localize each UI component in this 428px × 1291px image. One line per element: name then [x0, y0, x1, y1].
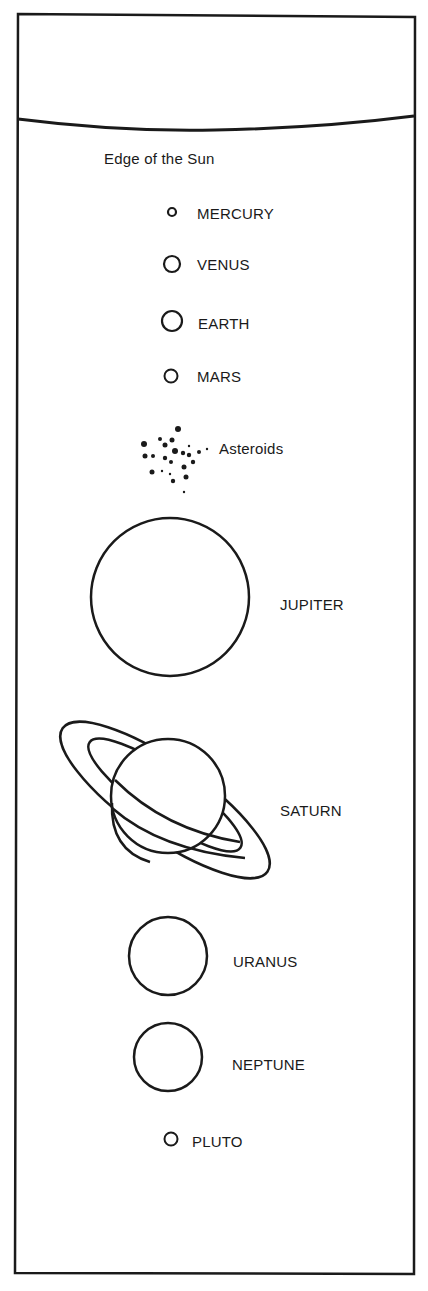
venus-circle: [164, 256, 180, 272]
uranus-label: URANUS: [233, 954, 298, 969]
saturn-label: SATURN: [280, 803, 342, 818]
mars-label: MARS: [197, 369, 241, 384]
solar-system-diagram: [0, 0, 428, 1291]
jupiter-circle: [91, 518, 249, 676]
pluto-label: PLUTO: [192, 1134, 243, 1149]
mars-circle: [165, 370, 178, 383]
sun-edge-curve: [18, 116, 414, 130]
earth-circle: [162, 311, 182, 331]
neptune-circle: [134, 1023, 202, 1091]
pluto-circle: [165, 1133, 178, 1146]
saturn-icon: [41, 697, 289, 903]
neptune-label: NEPTUNE: [232, 1057, 305, 1072]
jupiter-label: JUPITER: [280, 597, 344, 612]
frame-border: [15, 14, 415, 1274]
asteroids-label: Asteroids: [219, 441, 283, 456]
sun-edge-label: Edge of the Sun: [104, 151, 215, 166]
earth-label: EARTH: [198, 316, 250, 331]
venus-label: VENUS: [197, 257, 250, 272]
asteroid-belt-icon: [141, 426, 208, 493]
mercury-circle: [168, 208, 176, 216]
uranus-circle: [129, 917, 207, 995]
mercury-label: MERCURY: [197, 206, 274, 221]
